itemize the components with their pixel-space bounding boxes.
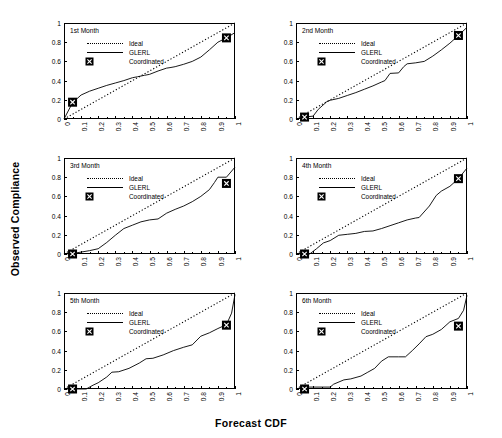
coordinated-data-point [68, 385, 77, 394]
x-tick-mark [235, 116, 236, 119]
y-tick-label: 1 [57, 20, 61, 27]
x-tick-mark [235, 251, 236, 254]
y-tick-label: 0 [57, 251, 61, 258]
panel-6th-month: 6th MonthIdealGLERLCoordinated00.20.40.6… [296, 293, 467, 389]
x-tick-label: 0.4 [364, 122, 371, 131]
x-tick-label: 0.8 [200, 392, 207, 401]
x-tick-label: 0.6 [166, 392, 173, 401]
y-tick-label: 0.8 [52, 39, 61, 46]
x-tick-label: 0.4 [364, 257, 371, 266]
y-tick-label: 0.2 [52, 96, 61, 103]
x-tick-mark [467, 116, 468, 119]
y-tick-label: 0.6 [52, 328, 61, 335]
glerl-curve [64, 167, 235, 254]
coordinated-data-point [300, 385, 309, 394]
y-tick-label: 0.8 [284, 309, 293, 316]
x-tick-label: 0.9 [217, 392, 224, 401]
panel-1st-month: 1st MonthIdealGLERLCoordinated00.20.40.6… [64, 23, 235, 119]
y-tick-label: 0.6 [284, 58, 293, 65]
x-tick-label: 0.2 [97, 392, 104, 401]
y-tick-label: 0.8 [284, 174, 293, 181]
panel-5th-month: 5th MonthIdealGLERLCoordinated00.20.40.6… [64, 293, 235, 389]
x-tick-label: 0.2 [329, 122, 336, 131]
ideal-curve [64, 23, 235, 119]
glerl-curve [296, 295, 467, 389]
x-tick-label: 0.2 [97, 257, 104, 266]
x-tick-label: 0.8 [200, 122, 207, 131]
x-tick-label: 0.6 [166, 122, 173, 131]
coordinated-data-point [454, 174, 463, 183]
panel-4th-month: 4th MonthIdealGLERLCoordinated00.20.40.6… [296, 158, 467, 254]
x-tick-label: 0.4 [132, 392, 139, 401]
x-tick-label: 0.1 [80, 122, 87, 131]
ideal-curve [296, 158, 467, 254]
coordinated-data-point [222, 33, 231, 42]
x-tick-label: 0.3 [346, 392, 353, 401]
x-tick-label: 0 [295, 122, 302, 126]
y-tick-label: 0.4 [284, 347, 293, 354]
x-tick-label: 0.3 [114, 122, 121, 131]
y-tick-label: 0.2 [52, 366, 61, 373]
x-tick-label: 0.3 [346, 257, 353, 266]
x-tick-label: 0.7 [183, 257, 190, 266]
y-tick-label: 0.4 [284, 77, 293, 84]
series-layer [296, 158, 467, 254]
x-tick-label: 0.8 [200, 257, 207, 266]
x-tick-label: 0.4 [132, 257, 139, 266]
y-tick-label: 0.8 [52, 174, 61, 181]
y-tick-label: 0.4 [52, 212, 61, 219]
x-tick-label: 0.1 [312, 392, 319, 401]
x-tick-mark [467, 386, 468, 389]
y-tick-label: 0.6 [52, 193, 61, 200]
x-tick-label: 1 [466, 392, 473, 396]
x-tick-mark [235, 386, 236, 389]
y-tick-label: 0 [57, 116, 61, 123]
x-tick-label: 0.2 [329, 392, 336, 401]
x-tick-label: 0.3 [114, 257, 121, 266]
x-tick-label: 0.9 [449, 392, 456, 401]
y-tick-label: 0 [57, 386, 61, 393]
x-tick-label: 1 [234, 392, 241, 396]
x-tick-label: 0.2 [329, 257, 336, 266]
ideal-curve [296, 23, 467, 119]
y-tick-label: 1 [289, 155, 293, 162]
y-tick-label: 0 [289, 251, 293, 258]
x-tick-label: 1 [466, 257, 473, 261]
x-tick-label: 0.9 [449, 257, 456, 266]
x-tick-label: 0.8 [432, 392, 439, 401]
y-tick-label: 0.6 [284, 328, 293, 335]
coordinated-data-point [222, 179, 231, 188]
glerl-curve [64, 294, 235, 389]
y-tick-label: 0 [289, 386, 293, 393]
x-tick-label: 0.7 [183, 392, 190, 401]
y-tick-label: 0.4 [52, 77, 61, 84]
y-tick-label: 0.2 [52, 231, 61, 238]
ideal-curve [296, 293, 467, 389]
panel-3rd-month: 3rd MonthIdealGLERLCoordinated00.20.40.6… [64, 158, 235, 254]
y-tick-label: 0 [289, 116, 293, 123]
glerl-curve [296, 27, 467, 119]
coordinated-data-point [222, 321, 231, 330]
x-tick-label: 1 [466, 122, 473, 126]
series-layer [296, 293, 467, 389]
x-tick-label: 0.6 [166, 257, 173, 266]
x-tick-label: 0.5 [149, 122, 156, 131]
x-tick-label: 0.3 [114, 392, 121, 401]
x-tick-label: 0.6 [398, 257, 405, 266]
y-tick-label: 1 [57, 155, 61, 162]
y-tick-label: 0.6 [284, 193, 293, 200]
x-tick-mark [467, 251, 468, 254]
x-tick-label: 1 [234, 122, 241, 126]
y-tick-label: 0.2 [284, 366, 293, 373]
x-tick-label: 0.7 [415, 392, 422, 401]
x-tick-label: 0.5 [381, 392, 388, 401]
x-tick-label: 0.4 [364, 392, 371, 401]
y-tick-label: 0.2 [284, 231, 293, 238]
x-tick-label: 0.9 [217, 122, 224, 131]
series-layer [64, 23, 235, 119]
x-tick-label: 0.6 [398, 122, 405, 131]
coordinated-data-point [68, 250, 77, 259]
x-tick-label: 0.7 [415, 122, 422, 131]
ideal-curve [64, 293, 235, 389]
x-tick-label: 0 [63, 122, 70, 126]
